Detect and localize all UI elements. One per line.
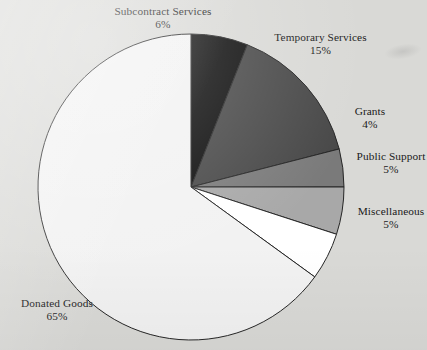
slice-label-category: Public Support xyxy=(341,150,427,163)
pie-slice-group xyxy=(38,34,344,340)
slice-label-category: Donated Goods xyxy=(5,297,109,310)
slice-label-value: 4% xyxy=(331,118,409,131)
slice-label-category: Miscellaneous xyxy=(343,205,427,218)
slice-label-donated-goods: Donated Goods 65% xyxy=(5,297,109,322)
slice-label-grants: Grants 4% xyxy=(331,105,409,130)
slice-label-temporary-services: Temporary Services 15% xyxy=(255,31,386,56)
slice-label-miscellaneous: Miscellaneous 5% xyxy=(343,205,427,230)
slice-label-category: Temporary Services xyxy=(255,31,386,44)
slice-label-value: 6% xyxy=(93,18,233,31)
slice-label-value: 65% xyxy=(5,310,109,323)
slice-label-category: Subcontract Services xyxy=(93,5,233,18)
slice-label-value: 5% xyxy=(341,163,427,176)
slice-label-public-support: Public Support 5% xyxy=(341,150,427,175)
slice-label-category: Grants xyxy=(331,105,409,118)
slice-label-value: 5% xyxy=(343,218,427,231)
pie-chart: Subcontract Services 6% Temporary Servic… xyxy=(0,0,427,350)
slice-label-subcontract-services: Subcontract Services 6% xyxy=(93,5,233,30)
slice-label-value: 15% xyxy=(255,44,386,57)
